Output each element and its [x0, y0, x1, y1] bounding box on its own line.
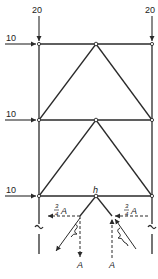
node-top-right	[150, 42, 153, 45]
svg-text:A: A	[60, 206, 67, 216]
brace-bottom-left	[80, 196, 96, 216]
label-left-vertical-A: A	[76, 260, 83, 270]
svg-text:A: A	[130, 206, 137, 216]
truss-diagram: 20 20 10 10 10 h 3 4 A 3 4 A A A	[0, 0, 158, 279]
load-label-horizontal-top: 10	[6, 33, 16, 43]
brace-top-left	[39, 44, 96, 120]
load-label-horizontal-bottom: 10	[6, 185, 16, 195]
svg-text:3: 3	[55, 203, 59, 209]
force-right-diagonal	[115, 219, 136, 249]
svg-text:3: 3	[125, 203, 129, 209]
right-column-break	[148, 226, 156, 229]
brace-bottom-right	[96, 196, 112, 216]
node-top-apex	[94, 42, 98, 46]
brace-top-right	[96, 44, 152, 120]
load-label-vertical-right: 20	[145, 5, 155, 15]
svg-text:4: 4	[125, 211, 129, 217]
brace-mid-left	[39, 120, 96, 196]
load-label-vertical-left: 20	[32, 5, 42, 15]
left-column-break	[35, 226, 43, 229]
label-left-three-quarter-A: 3 4 A	[54, 203, 67, 217]
label-right-three-quarter-A: 3 4 A	[124, 203, 137, 217]
node-bot-right	[150, 194, 153, 197]
node-top-left	[37, 42, 40, 45]
node-mid-right	[150, 118, 153, 121]
node-label-h: h	[93, 185, 98, 195]
brace-mid-right	[96, 120, 152, 196]
node-mid-left	[37, 118, 40, 121]
label-right-vertical-A: A	[108, 260, 115, 270]
node-mid-apex	[94, 118, 98, 122]
force-left-diagonal	[56, 218, 80, 251]
node-bot-left	[37, 194, 40, 197]
load-label-horizontal-middle: 10	[6, 109, 16, 119]
